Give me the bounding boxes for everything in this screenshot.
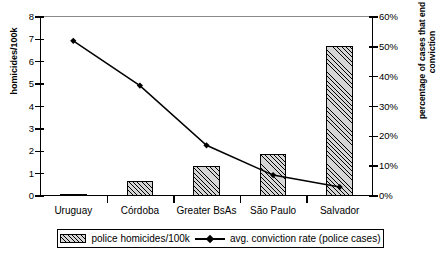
line-series <box>40 17 373 196</box>
left-axis-ticks: 012345678 <box>8 0 34 258</box>
left-tick-label: 0 <box>8 191 34 201</box>
x-tick-mark <box>306 196 307 203</box>
right-tick-label: 0% <box>379 191 409 201</box>
left-tick-label: 5 <box>8 79 34 89</box>
x-tick-mark <box>107 196 108 203</box>
left-tick-label: 4 <box>8 102 34 112</box>
combo-chart: homicides/100k percentage of cases that … <box>0 0 440 258</box>
chart-legend: police homicides/100k avg. conviction ra… <box>57 229 384 248</box>
legend-bar-label: police homicides/100k <box>91 233 189 244</box>
category-label: Uruguay <box>40 205 107 216</box>
left-tick-label: 7 <box>8 34 34 44</box>
line-markers <box>70 38 343 190</box>
right-tick-label: 50% <box>379 42 409 52</box>
line-marker <box>270 172 276 178</box>
category-label: Greater BsAs <box>173 205 240 216</box>
x-tick-mark <box>240 196 241 203</box>
legend-bar-swatch <box>60 234 86 243</box>
right-axis-title-line2: conviction <box>427 31 437 74</box>
right-axis-title: percentage of cases that end in a convic… <box>417 0 437 127</box>
category-label: São Paulo <box>240 205 307 216</box>
x-tick-mark <box>173 196 174 203</box>
right-tick-label: 10% <box>379 161 409 171</box>
left-tick-label: 3 <box>8 124 34 134</box>
legend-line-label: avg. conviction rate (police cases) <box>230 233 381 244</box>
right-tick-label: 20% <box>379 131 409 141</box>
left-tick-label: 6 <box>8 57 34 67</box>
right-axis-ticks: 0%10%20%30%40%50%60% <box>379 0 411 258</box>
right-tick-label: 40% <box>379 72 409 82</box>
line-marker <box>337 184 343 190</box>
conviction-rate-line <box>73 41 339 187</box>
legend-line-swatch <box>195 234 225 243</box>
left-tick-label: 8 <box>8 12 34 22</box>
right-axis-title-line1: percentage of cases that end in a <box>417 0 427 119</box>
category-axis-labels: UruguayCórdobaGreater BsAsSão PauloSalva… <box>40 205 373 219</box>
left-tick-label: 2 <box>8 146 34 156</box>
category-label: Córdoba <box>107 205 174 216</box>
right-tick-label: 60% <box>379 12 409 22</box>
left-tick-label: 1 <box>8 169 34 179</box>
category-label: Salvador <box>306 205 373 216</box>
right-tick-label: 30% <box>379 102 409 112</box>
